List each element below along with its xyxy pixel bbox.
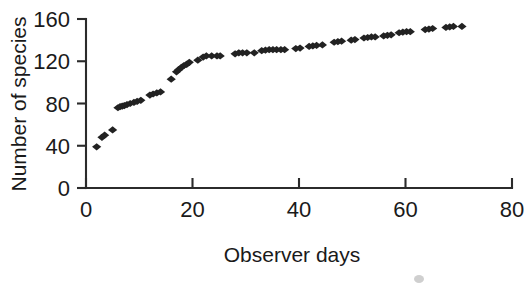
x-axis-title: Observer days bbox=[224, 243, 361, 266]
y-tick-label: 160 bbox=[33, 7, 70, 32]
x-tick-label: 0 bbox=[80, 197, 92, 222]
y-axis-title: Number of species bbox=[7, 16, 30, 191]
x-tick-label: 40 bbox=[287, 197, 311, 222]
data-point-marker bbox=[318, 41, 327, 48]
y-tick-label: 80 bbox=[46, 92, 70, 117]
data-point-marker bbox=[250, 49, 259, 56]
x-tick-label: 80 bbox=[500, 197, 524, 222]
x-tick-label: 60 bbox=[393, 197, 417, 222]
chart-canvas: 04080120160 020406080 Observer days Numb… bbox=[0, 0, 527, 283]
y-tick-label: 40 bbox=[46, 134, 70, 159]
scan-artifact bbox=[414, 275, 424, 283]
y-tick-label: 0 bbox=[58, 176, 70, 201]
data-point-marker bbox=[167, 76, 176, 83]
x-tick-label: 20 bbox=[180, 197, 204, 222]
x-axis-ticks: 020406080 bbox=[80, 178, 524, 222]
species-accumulation-figure: 04080120160 020406080 Observer days Numb… bbox=[0, 0, 527, 283]
data-point-marker bbox=[108, 126, 117, 133]
data-point-series bbox=[92, 23, 466, 151]
y-tick-label: 120 bbox=[33, 49, 70, 74]
data-point-marker bbox=[457, 23, 466, 30]
data-point-marker bbox=[92, 143, 101, 150]
y-axis-ticks: 04080120160 bbox=[33, 7, 86, 201]
